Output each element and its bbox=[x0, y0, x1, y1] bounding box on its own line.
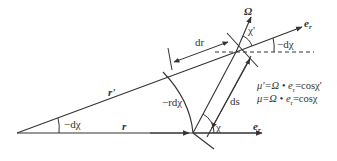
label-neg-r-dchi: −rdχ bbox=[162, 96, 182, 108]
label-e-r-bottom: er bbox=[253, 120, 261, 134]
label-neg-dchi-right: −dχ bbox=[277, 38, 294, 50]
angle-arc-chi-prime bbox=[243, 36, 252, 46]
label-omega: Ω bbox=[244, 5, 253, 17]
formula-mu-prime: μ'=Ω • er=cosχ' bbox=[257, 80, 322, 94]
label-r-prime: r' bbox=[108, 86, 115, 98]
formula-mu: μ=Ω • er=cosχ bbox=[257, 93, 317, 107]
label-ds: ds bbox=[230, 95, 240, 107]
label-dr: dr bbox=[195, 36, 205, 48]
angle-arc-left bbox=[58, 118, 59, 133]
label-r: r bbox=[122, 120, 127, 132]
ds-arrow bbox=[212, 59, 250, 128]
label-e-r-top: er bbox=[304, 17, 312, 31]
dr-extension-left bbox=[168, 48, 172, 70]
label-neg-dchi-left: −dχ bbox=[64, 118, 81, 130]
ds-path-line bbox=[193, 52, 236, 133]
angle-arc-right bbox=[273, 38, 274, 52]
angle-arc-chi bbox=[203, 114, 214, 133]
radius-r-prime-line bbox=[17, 52, 236, 133]
label-chi-prime: χ' bbox=[247, 24, 255, 36]
label-chi: χ bbox=[215, 121, 221, 133]
perp-tick-bottom bbox=[193, 133, 214, 149]
